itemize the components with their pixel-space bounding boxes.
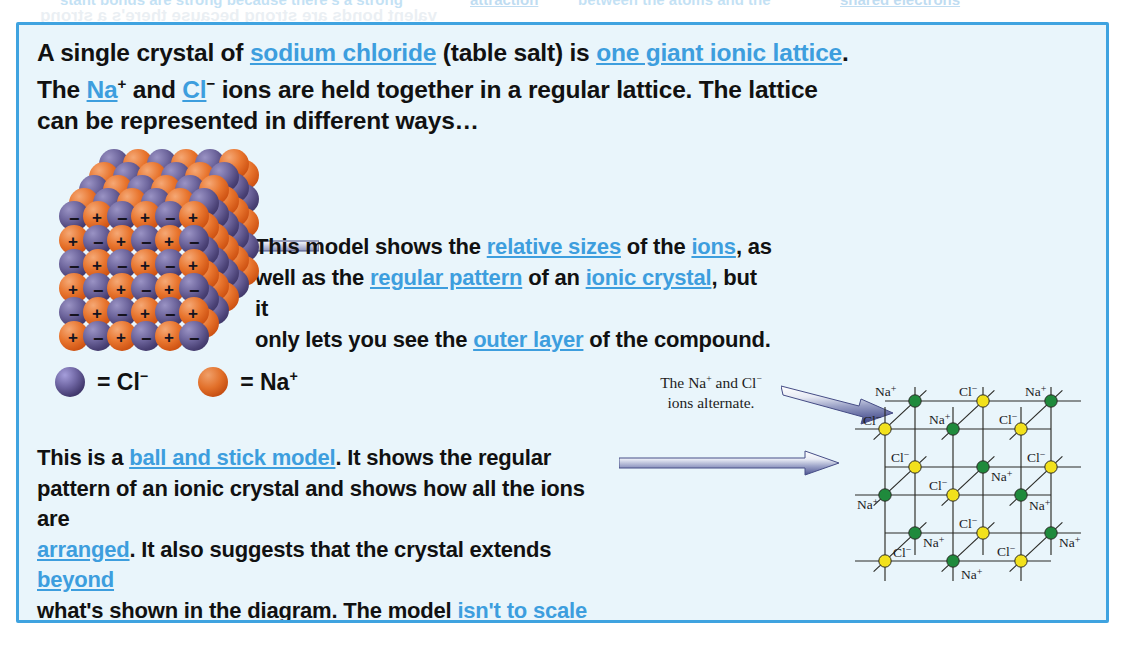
space-filling-crystal-model: +−+−+−−+−+−++−+−+−−+−+−++−+−+−−+−+−+ (53, 167, 265, 367)
chloride-ion-label: Cl− (999, 411, 1018, 427)
chloride-ion-label: Cl− (1027, 449, 1046, 465)
keyword-link[interactable]: isn't to scale (457, 598, 587, 623)
lower-paragraph: This is a ball and stick model. It shows… (37, 443, 617, 623)
sodium-ion-label: Na+ (961, 566, 983, 582)
keyword-link[interactable]: beyond (37, 567, 114, 592)
ionic-lattice-info-box: A single crystal of sodium chloride (tab… (16, 22, 1109, 623)
ghost-text-keyword: attraction (470, 0, 538, 8)
sodium-ion-node (1015, 489, 1027, 501)
sodium-ion-label: Na+ (923, 534, 945, 550)
chloride-ion-label: Cl− (891, 449, 910, 465)
ghost-text-1: stant bonds are strong because there's a… (60, 0, 403, 8)
chloride-ion-label: Cl− (893, 544, 912, 560)
sodium-ion-node (879, 489, 891, 501)
paragraph-text: well as the (255, 265, 370, 290)
keyword-link[interactable]: ions (691, 234, 735, 259)
paragraph-text: only lets you see the (255, 327, 473, 352)
sodium-ion-node (947, 555, 959, 567)
keyword-link[interactable]: one giant ionic lattice (596, 39, 842, 66)
lattice-bonds (855, 387, 1081, 581)
sodium-ion-label: Na+ (929, 411, 951, 427)
keyword-link[interactable]: regular pattern (370, 265, 522, 290)
chloride-ion-node (977, 395, 989, 407)
sodium-ion-node (909, 395, 921, 407)
paragraph-text: , as (736, 234, 772, 259)
chloride-ion-label: Cl− (959, 515, 978, 531)
annotation-line1-pre: The Na (660, 374, 706, 391)
paragraph-text: of the compound. (583, 327, 770, 352)
sodium-ion-node (1045, 395, 1057, 407)
lattice-svg: Na+Cl−Na+Cl−Na+Cl−Cl−Na+Cl−Na+Cl−Na+Na+C… (847, 363, 1109, 611)
keyword-link[interactable]: arranged (37, 537, 130, 562)
intro-paragraph: A single crystal of sodium chloride (tab… (37, 37, 1067, 136)
sodium-ion-label: Na+ (1025, 383, 1047, 399)
chloride-ion-node (879, 423, 891, 435)
chloride-ion-sphere (179, 321, 209, 351)
paragraph-text: A single crystal of (37, 39, 250, 66)
paragraph-text: − (206, 75, 215, 92)
cut-off-header-text: stant bonds are strong because there's a… (0, 0, 1131, 18)
arrow-paragraph-to-lattice (619, 449, 843, 481)
chloride-ion-node (1045, 461, 1057, 473)
chloride-ion-label: Cl− (959, 383, 978, 399)
keyword-link[interactable]: Cl (182, 76, 206, 103)
keyword-link[interactable]: outer layer (473, 327, 583, 352)
sodium-ion-label: Na+ (857, 496, 879, 512)
chloride-ion-node (947, 489, 959, 501)
chloride-ion-label: Cl− (929, 477, 948, 493)
sodium-key-label: = Na+ (240, 368, 298, 396)
middle-paragraph: This model shows the relative sizes of t… (255, 231, 775, 355)
ball-and-stick-lattice-diagram: Na+Cl−Na+Cl−Na+Cl−Cl−Na+Cl−Na+Cl−Na+Na+C… (847, 363, 1109, 611)
paragraph-text: pattern of an ionic crystal and shows ho… (37, 476, 585, 532)
ion-colour-key: = Cl− = Na+ (55, 367, 298, 397)
sodium-ion-node (947, 423, 959, 435)
sodium-ion-label: Na+ (1059, 534, 1081, 550)
ghost-text-keyword-2: shared electrons (840, 0, 960, 8)
keyword-link[interactable]: ball and stick model (129, 445, 335, 470)
paragraph-text: . It also suggests that the crystal exte… (130, 537, 552, 562)
paragraph-text: ions are held together in a regular latt… (215, 76, 818, 103)
paragraph-text: The (37, 76, 87, 103)
paragraph-text: + (118, 75, 127, 92)
keyword-link[interactable]: ionic crystal (586, 265, 712, 290)
paragraph-text: This model shows the (255, 234, 487, 259)
paragraph-text: of an (522, 265, 585, 290)
paragraph-text: . It shows the regular (335, 445, 551, 470)
chloride-ion-swatch-icon (55, 367, 85, 397)
keyword-link[interactable]: relative sizes (487, 234, 621, 259)
ghost-text-2: between the atoms and the (578, 0, 771, 8)
sodium-ion-node (977, 461, 989, 473)
paragraph-text: what's shown in the diagram. The model (37, 598, 457, 623)
annotation-line2: ions alternate. (668, 394, 755, 411)
chloride-ion-node (909, 461, 921, 473)
chloride-ion-node (879, 555, 891, 567)
chloride-ion-node (1015, 423, 1027, 435)
annotation-line1-mid: and Cl (712, 374, 757, 391)
paragraph-text: of the (621, 234, 692, 259)
chloride-key-label: = Cl− (97, 368, 148, 396)
sodium-ion-label: Na+ (1029, 497, 1051, 513)
chloride-ion-label: Cl− (997, 543, 1016, 559)
keyword-link[interactable]: Na (87, 76, 118, 103)
sodium-ion-node (1045, 527, 1057, 539)
sodium-ion-label: Na+ (875, 383, 897, 399)
chloride-ion-node (1015, 555, 1027, 567)
paragraph-text: . (842, 39, 849, 66)
annotation-sup-minus: − (756, 373, 761, 384)
lattice-ions: Na+Cl−Na+Cl−Na+Cl−Cl−Na+Cl−Na+Cl−Na+Na+C… (857, 383, 1081, 582)
chloride-ion-label: Cl− (863, 412, 882, 428)
paragraph-text: This is a (37, 445, 129, 470)
sodium-ion-node (909, 527, 921, 539)
alternating-ions-annotation: The Na+ and Cl− ions alternate. (623, 369, 799, 413)
sodium-ion-label: Na+ (991, 468, 1013, 484)
paragraph-text: (table salt) is (436, 39, 596, 66)
keyword-link[interactable]: sodium chloride (250, 39, 436, 66)
chloride-ion-node (977, 527, 989, 539)
sodium-ion-swatch-icon (198, 367, 228, 397)
paragraph-text: and (126, 76, 182, 103)
paragraph-text: can be represented in different ways… (37, 107, 479, 134)
